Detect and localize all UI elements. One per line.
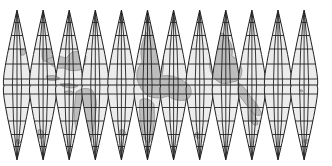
graticule: [212, 10, 240, 160]
graticule: [81, 10, 109, 160]
graticule: [55, 10, 83, 160]
graticule: [160, 10, 188, 160]
globe-gores-map: [0, 0, 332, 166]
graticule: [29, 10, 57, 160]
graticule: [186, 10, 214, 160]
graticule: [238, 10, 266, 160]
graticule: [134, 10, 162, 160]
gores-group: [3, 10, 318, 160]
graticule: [290, 10, 318, 160]
graticule: [264, 10, 292, 160]
graticule: [107, 10, 135, 160]
graticule: [3, 10, 31, 160]
map-canvas: [0, 0, 332, 166]
